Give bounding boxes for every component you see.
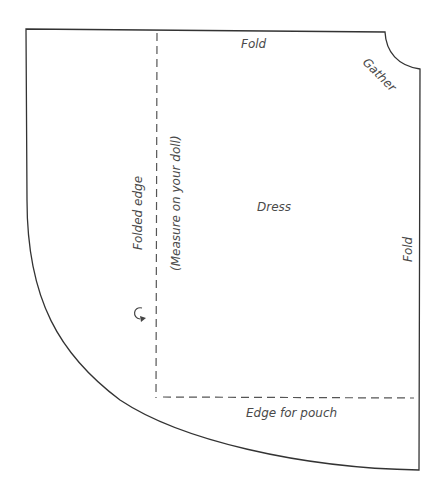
top-fold-label: Fold bbox=[241, 37, 267, 51]
measure-note-label: (Measure on your doll) bbox=[169, 135, 183, 271]
curved-arrow-icon bbox=[135, 308, 146, 322]
pattern-outline bbox=[26, 29, 420, 470]
folded-edge-label: Folded edge bbox=[131, 176, 145, 250]
gather-label: Gather bbox=[360, 55, 400, 95]
piece-name-label: Dress bbox=[257, 200, 291, 214]
folded-edge-dashed-line bbox=[156, 33, 157, 398]
right-fold-label: Fold bbox=[401, 236, 415, 262]
pouch-edge-dashed-line bbox=[163, 397, 414, 398]
pattern-diagram: Fold Gather Fold Folded edge (Measure on… bbox=[0, 0, 445, 491]
pouch-edge-label: Edge for pouch bbox=[246, 406, 337, 420]
